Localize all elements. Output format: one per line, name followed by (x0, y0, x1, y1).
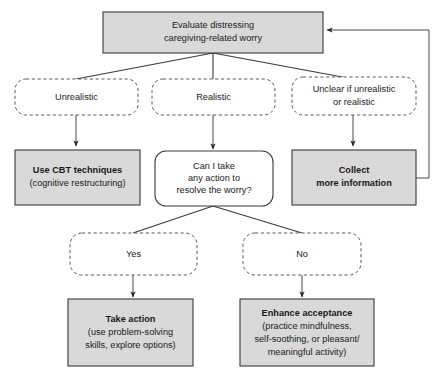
node-enhance-line2: (practice mindfulness, (262, 321, 351, 331)
node-no[interactable]: No (243, 233, 361, 275)
node-cbt-line1: Use CBT techniques (33, 165, 122, 175)
node-take-action-line2: (use problem-solving (88, 327, 173, 337)
node-question-line3: resolve the worry? (176, 185, 251, 195)
node-collect-line2: more information (316, 178, 392, 188)
connector-question-fan (133, 206, 302, 233)
node-unclear-line1: Unclear if unrealistic (313, 84, 396, 94)
node-yes[interactable]: Yes (70, 233, 197, 275)
node-unrealistic-label: Unrealistic (55, 92, 98, 102)
node-enhance-line1: Enhance acceptance (262, 308, 353, 318)
flowchart-svg: Evaluate distressing caregiving-related … (0, 0, 436, 385)
node-question-line2: any action to (188, 173, 240, 183)
node-realistic[interactable]: Realistic (152, 79, 275, 115)
node-unclear-line2: or realistic (333, 97, 375, 107)
node-realistic-label: Realistic (196, 92, 231, 102)
node-question-line1: Can I take (193, 161, 235, 171)
connector-evaluate-fan (76, 53, 353, 79)
node-take-action[interactable]: Take action (use problem-solving skills,… (68, 299, 193, 366)
node-enhance-acceptance[interactable]: Enhance acceptance (practice mindfulness… (240, 299, 374, 366)
node-collect-line1: Collect (339, 165, 370, 175)
node-unrealistic[interactable]: Unrealistic (15, 79, 138, 115)
node-yes-label: Yes (126, 249, 141, 259)
node-take-action-line1: Take action (106, 314, 156, 324)
node-unclear[interactable]: Unclear if unrealistic or realistic (292, 77, 416, 115)
node-enhance-line3: self-soothing, or pleasant/ (254, 334, 360, 344)
node-collect-more-information[interactable]: Collect more information (292, 150, 416, 205)
node-evaluate-line2: caregiving-related worry (164, 33, 262, 43)
flowchart-canvas: Evaluate distressing caregiving-related … (0, 0, 436, 385)
node-use-cbt-techniques[interactable]: Use CBT techniques (cognitive restructur… (15, 150, 140, 205)
node-enhance-line4: meaningful activity) (268, 347, 347, 357)
node-cbt-line2: (cognitive restructuring) (30, 178, 126, 188)
node-question-can-i-take-action[interactable]: Can I take any action to resolve the wor… (155, 151, 273, 206)
node-evaluate-worry[interactable]: Evaluate distressing caregiving-related … (103, 12, 323, 53)
node-evaluate-line1: Evaluate distressing (172, 20, 254, 30)
node-take-action-line3: skills, explore options) (85, 340, 175, 350)
node-no-label: No (296, 249, 308, 259)
